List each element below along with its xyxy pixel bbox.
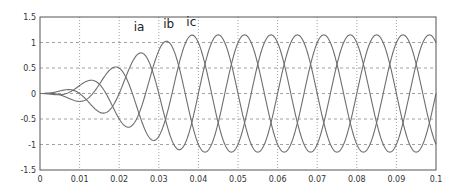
x-tick-label: 0.04 xyxy=(189,175,207,184)
y-axis-ticks: 1.510.50-0.5-1-1.5 xyxy=(20,13,36,175)
chart-container: 00.010.020.030.040.050.060.070.080.090.1… xyxy=(0,0,456,188)
x-tick-label: 0.1 xyxy=(430,175,443,184)
y-tick-label: 1.5 xyxy=(23,13,36,22)
x-tick-label: 0.03 xyxy=(150,175,168,184)
x-tick-label: 0.09 xyxy=(387,175,405,184)
y-tick-label: 0 xyxy=(31,90,36,99)
x-tick-label: 0.06 xyxy=(269,175,287,184)
y-tick-label: -1.5 xyxy=(20,166,36,175)
curve-labels: iaibic xyxy=(134,15,197,35)
x-tick-label: 0 xyxy=(37,175,42,184)
label-ic: ic xyxy=(186,15,196,29)
three-phase-current-plot: 00.010.020.030.040.050.060.070.080.090.1… xyxy=(0,0,456,188)
label-ia: ia xyxy=(134,20,145,34)
y-tick-label: -1 xyxy=(28,141,36,150)
y-tick-label: 1 xyxy=(31,39,36,48)
y-tick-label: -0.5 xyxy=(20,115,36,124)
x-axis-ticks: 00.010.020.030.040.050.060.070.080.090.1 xyxy=(37,175,442,184)
label-ib: ib xyxy=(163,17,174,31)
x-tick-label: 0.02 xyxy=(110,175,128,184)
x-tick-label: 0.05 xyxy=(229,175,247,184)
y-tick-label: 0.5 xyxy=(23,64,36,73)
x-tick-label: 0.07 xyxy=(308,175,326,184)
x-tick-label: 0.08 xyxy=(348,175,366,184)
x-tick-label: 0.01 xyxy=(71,175,89,184)
